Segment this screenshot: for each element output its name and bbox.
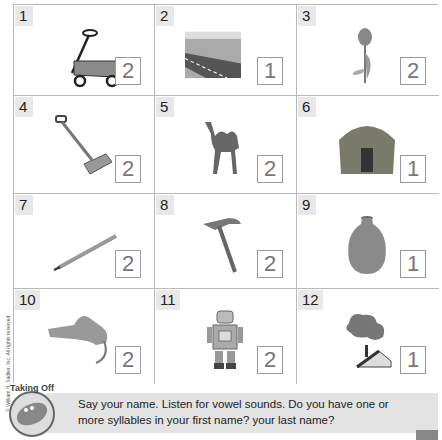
grid-cell: 10 2 [14,289,155,384]
vase-icon [327,212,407,278]
syllable-answer-box[interactable]: 1 [400,346,426,374]
syllable-answer-box[interactable]: 2 [115,346,141,374]
item-number: 4 [15,97,33,117]
item-number: 12 [298,290,323,310]
page-corner-tab [416,430,438,440]
shovel-icon [44,114,124,180]
syllable-answer-box[interactable]: 2 [115,250,141,278]
grid-cell: 9 1 [297,194,439,289]
grid-cell: 5 2 [155,96,297,194]
item-number: 10 [15,290,40,310]
syllable-answer-box[interactable]: 1 [257,57,283,85]
instruction-text: Say your name. Listen for vowel sounds. … [78,396,418,428]
hammer-icon [185,212,265,278]
item-number: 5 [156,97,174,117]
tiger-icon [44,307,124,373]
grid-cell: 7 2 [14,194,155,289]
item-number: 6 [298,97,316,117]
grid-cell: 3 2 [297,5,439,96]
item-number: 11 [156,290,180,310]
syllable-answer-box[interactable]: 2 [257,155,283,183]
syllable-answer-box[interactable]: 2 [115,57,141,85]
chimney-smoke-icon [327,307,407,373]
robot-icon [185,307,265,373]
item-number: 1 [15,6,33,26]
item-number: 7 [15,195,33,215]
tulip-icon [327,23,407,89]
syllable-answer-box[interactable]: 1 [400,155,426,183]
grid-cell: 1 2 [14,5,155,96]
wagon-icon [44,23,124,89]
syllable-answer-box[interactable]: 2 [257,250,283,278]
grid-cell: 12 1 [297,289,439,384]
grid-cell: 4 2 [14,96,155,194]
syllable-answer-box[interactable]: 1 [400,250,426,278]
taking-off-badge-icon: Taking Off [2,382,62,440]
grid-cell: 11 2 [155,289,297,384]
item-number: 3 [298,6,316,26]
item-number: 8 [156,195,174,215]
grid-cell: 8 2 [155,194,297,289]
syllable-answer-box[interactable]: 2 [115,155,141,183]
camel-icon [185,114,265,180]
picture-grid: 1 2 2 1 3 2 4 [13,4,438,383]
pencil-icon [44,212,124,278]
hut-icon [327,114,407,180]
syllable-answer-box[interactable]: 2 [400,57,426,85]
badge-label: Taking Off [10,383,55,393]
grid-cell: 6 1 [297,96,439,194]
grid-cell: 2 1 [155,5,297,96]
syllable-answer-box[interactable]: 2 [257,346,283,374]
highway-icon [185,27,241,83]
item-number: 2 [156,6,174,26]
item-number: 9 [298,195,316,215]
